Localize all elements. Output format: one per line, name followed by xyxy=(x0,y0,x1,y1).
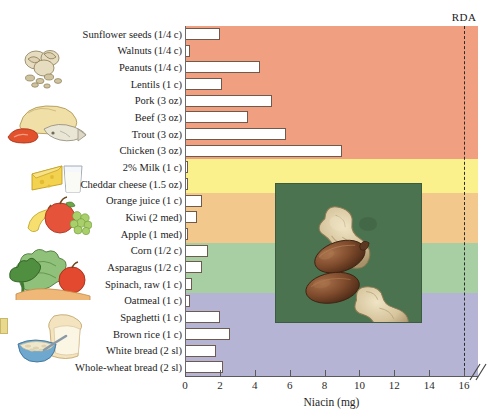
x-axis-tick xyxy=(255,370,256,377)
x-axis-tick xyxy=(220,370,221,377)
bar-category-label: Whole-wheat bread (2 sl) xyxy=(75,360,182,375)
grains-illustration xyxy=(14,310,90,366)
bar-category-label: 2% Milk (1 c) xyxy=(123,160,182,175)
x-axis-tick-label: 10 xyxy=(344,379,374,391)
bar xyxy=(185,328,230,340)
x-axis-tick xyxy=(325,370,326,377)
bar-category-label: Kiwi (2 med) xyxy=(125,210,182,225)
bar-row: Lentils (1 c) xyxy=(185,76,478,94)
bar-category-label: Lentils (1 c) xyxy=(131,77,182,92)
x-axis-tick xyxy=(185,370,186,377)
bar xyxy=(185,261,202,273)
vegetable-illustration xyxy=(6,244,94,300)
bar-row: White bread (2 sl) xyxy=(185,342,478,360)
bar-row: Whole-wheat bread (2 sl) xyxy=(185,359,478,377)
x-axis-tick xyxy=(290,370,291,377)
bar-row: Pork (3 oz) xyxy=(185,92,478,110)
bar-category-label: Cheddar cheese (1.5 oz) xyxy=(81,177,182,192)
nuts-seeds-illustration xyxy=(14,46,76,90)
peanut-photo xyxy=(275,183,422,323)
bar-row: Beef (3 oz) xyxy=(185,109,478,127)
bar xyxy=(185,95,272,107)
bar xyxy=(185,145,342,157)
bar xyxy=(185,195,202,207)
bar xyxy=(185,61,260,73)
bar-category-label: Chicken (3 oz) xyxy=(120,143,182,158)
bar-category-label: Sunflower seeds (1/4 c) xyxy=(83,27,182,42)
bar-category-label: Beef (3 oz) xyxy=(135,110,182,125)
x-axis-title: Niacin (mg) xyxy=(185,396,478,408)
bar xyxy=(185,278,192,290)
x-axis-tick-label: 2 xyxy=(205,379,235,391)
x-axis-tick xyxy=(464,370,465,377)
bar-row: Peanuts (1/4 c) xyxy=(185,59,478,77)
bar-category-label: Trout (3 oz) xyxy=(132,127,182,142)
bar xyxy=(185,311,220,323)
bar-row: Sunflower seeds (1/4 c) xyxy=(185,26,478,44)
meat-fish-illustration xyxy=(4,97,88,149)
bar xyxy=(185,361,223,373)
bar xyxy=(185,345,216,357)
bar-category-label: Pork (3 oz) xyxy=(135,93,182,108)
rda-label: RDA xyxy=(452,11,477,23)
bar-row: Walnuts (1/4 c) xyxy=(185,42,478,60)
cheese-milk-illustration xyxy=(28,160,86,196)
y-axis-line xyxy=(185,26,186,376)
bar xyxy=(185,111,248,123)
bar-row: Chicken (3 oz) xyxy=(185,142,478,160)
bar-category-label: Spinach, raw (1 c) xyxy=(105,277,182,292)
x-axis-tick-label: 16 xyxy=(449,379,479,391)
x-axis-line xyxy=(185,376,478,377)
bar xyxy=(185,28,220,40)
bar-category-label: White bread (2 sl) xyxy=(106,343,182,358)
band-marker xyxy=(0,318,8,334)
bar xyxy=(185,78,222,90)
niacin-food-sources-figure: Sunflower seeds (1/4 c)Walnuts (1/4 c)Pe… xyxy=(0,0,492,420)
x-axis-tick-label: 8 xyxy=(310,379,340,391)
bar-row: 2% Milk (1 c) xyxy=(185,159,478,177)
bar-row: Trout (3 oz) xyxy=(185,126,478,144)
bar-category-label: Orange juice (1 c) xyxy=(106,193,182,208)
bar xyxy=(185,211,197,223)
bar-category-label: Corn (1/2 c) xyxy=(131,243,182,258)
bar-category-label: Peanuts (1/4 c) xyxy=(119,60,182,75)
bar-category-label: Brown rice (1 c) xyxy=(113,327,182,342)
x-axis-tick-label: 6 xyxy=(275,379,305,391)
bar-category-label: Asparagus (1/2 c) xyxy=(107,260,182,275)
x-axis-tick-label: 4 xyxy=(240,379,270,391)
x-axis-tick-label: 14 xyxy=(414,379,444,391)
bar-category-label: Spaghetti (1 c) xyxy=(120,310,182,325)
bar-row: Brown rice (1 c) xyxy=(185,326,478,344)
bar-category-label: Apple (1 med) xyxy=(121,227,182,242)
bar xyxy=(185,128,286,140)
x-axis-tick xyxy=(429,370,430,377)
bar-category-label: Walnuts (1/4 c) xyxy=(118,43,182,58)
rda-reference-line xyxy=(464,26,465,376)
bar xyxy=(185,245,208,257)
x-axis-tick xyxy=(394,370,395,377)
x-axis-tick-label: 12 xyxy=(379,379,409,391)
bar-category-label: Oatmeal (1 c) xyxy=(124,293,182,308)
x-axis-tick xyxy=(359,370,360,377)
x-axis-tick-label: 0 xyxy=(170,379,200,391)
fruit-illustration xyxy=(22,196,92,242)
